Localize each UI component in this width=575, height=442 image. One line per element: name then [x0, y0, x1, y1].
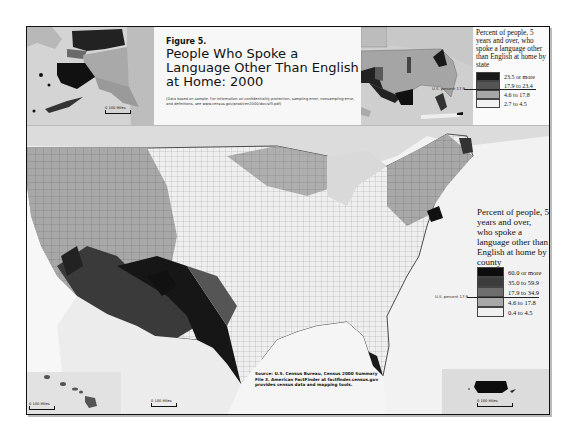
- county-us-percent-label: U.S. percent 17.9: [435, 294, 468, 299]
- swatch: [477, 307, 504, 317]
- swatch: [476, 90, 500, 99]
- figure-title: People Who Spoke a Language Other Than E…: [166, 47, 361, 89]
- source-note: Source: U.S. Census Bureau, Census 2000 …: [255, 371, 385, 388]
- swatch: [476, 99, 500, 108]
- county-legend-item: 0.4 to 4.5: [477, 307, 541, 317]
- swatch: [477, 287, 504, 297]
- swatch: [476, 72, 500, 81]
- county-legend-swatches: 60.0 or more 35.0 to 59.9 17.9 to 34.9 4…: [477, 267, 541, 317]
- state-legend-title: Percent of people, 5 years and over, who…: [476, 29, 548, 69]
- state-legend-swatches: 23.5 or more 17.9 to 23.4 4.6 to 17.8 2.…: [476, 72, 535, 108]
- state-legend: Percent of people, 5 years and over, who…: [473, 27, 549, 125]
- county-legend-item: 17.9 to 34.9: [477, 287, 541, 297]
- figure-frame: 0 100 Miles Figure 5. People Who Spoke a…: [26, 26, 550, 415]
- alaska-shape: [27, 27, 154, 125]
- hawaii-inset-map: 0 100 Miles: [27, 372, 121, 415]
- main-map-scale-bar: 0 100 Miles: [151, 399, 177, 407]
- state-legend-item: 23.5 or more: [476, 72, 535, 81]
- figure-label: Figure 5.: [166, 37, 206, 46]
- county-legend-item: 4.6 to 17.8: [477, 297, 541, 307]
- state-legend-item: 2.7 to 4.5: [476, 99, 535, 108]
- puerto-rico-shape: [442, 369, 549, 415]
- state-legend-item: 4.6 to 17.8: [476, 90, 535, 99]
- hawaii-scale-bar: 0 100 Miles: [29, 402, 55, 410]
- state-map-shape: [361, 27, 473, 125]
- state-us-percent-label: U.S. percent 17.9: [432, 86, 465, 91]
- alaska-scale-bar: 0 100 Miles: [105, 106, 131, 114]
- state-level-map: [361, 27, 473, 125]
- figure-note: (Data based on sample. For information o…: [166, 97, 361, 107]
- county-legend-item: 60.0 or more: [477, 267, 541, 277]
- puerto-rico-inset-map: 0 100 Miles: [442, 369, 549, 415]
- title-panel: Figure 5. People Who Spoke a Language Ot…: [154, 27, 361, 125]
- puerto-rico-scale-bar: 0 100 Miles: [477, 399, 513, 407]
- state-us-percent-line: [464, 89, 536, 90]
- alaska-inset-map: 0 100 Miles: [27, 27, 155, 125]
- swatch: [477, 277, 504, 287]
- county-legend-title: Percent of people, 5 years and over, who…: [477, 207, 549, 267]
- swatch: [477, 267, 504, 277]
- county-us-percent-line: [467, 297, 539, 298]
- swatch: [477, 297, 504, 307]
- county-legend-item: 35.0 to 59.9: [477, 277, 541, 287]
- alaska-scale-label: 0 100 Miles: [105, 106, 126, 110]
